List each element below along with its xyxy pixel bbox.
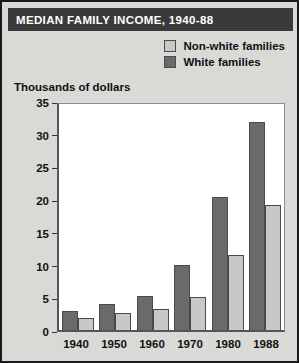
y-tick-label: 20	[36, 195, 49, 207]
bar-white-families-1960	[137, 296, 153, 330]
y-tick-label: 15	[36, 228, 49, 240]
y-tick: 25	[36, 162, 57, 174]
bar-group	[137, 296, 169, 330]
bar-white-families-1980	[212, 197, 228, 330]
y-tick: 0	[43, 326, 57, 338]
y-tick-label: 30	[36, 130, 49, 142]
legend-label-white-families: White families	[183, 56, 260, 68]
y-tick-label: 5	[43, 293, 49, 305]
y-tick: 20	[36, 195, 57, 207]
y-tick: 10	[36, 261, 57, 273]
bar-non-white-families-1950	[115, 313, 131, 330]
x-axis-labels: 194019501960197019801988	[57, 338, 285, 350]
chart-title-bar: MEDIAN FAMILY INCOME, 1940-88	[8, 8, 293, 31]
y-tick-label: 0	[43, 326, 49, 338]
chart-legend: Non-white families White families	[164, 40, 285, 68]
x-axis-label-1950: 1950	[97, 338, 131, 350]
bar-container	[59, 104, 284, 330]
bar-white-families-1940	[62, 311, 78, 330]
y-tick: 35	[36, 97, 57, 109]
x-axis-label-1940: 1940	[59, 338, 93, 350]
y-tick: 30	[36, 130, 57, 142]
bar-group	[99, 304, 131, 330]
y-axis-title: Thousands of dollars	[14, 81, 130, 93]
bar-white-families-1988	[249, 122, 265, 330]
y-tick-label: 35	[36, 97, 49, 109]
bar-group	[174, 265, 206, 330]
bar-group	[249, 122, 281, 330]
plot-area	[57, 103, 285, 332]
bar-non-white-families-1960	[153, 309, 169, 330]
x-axis-label-1980: 1980	[211, 338, 245, 350]
bar-group	[212, 197, 244, 330]
legend-label-non-white-families: Non-white families	[183, 40, 285, 52]
legend-item-non-white-families: Non-white families	[164, 40, 285, 52]
bar-non-white-families-1940	[78, 318, 94, 330]
y-tick: 15	[36, 228, 57, 240]
y-axis: 35 30 25 20 15 10	[11, 98, 57, 336]
bar-non-white-families-1988	[265, 205, 281, 330]
bar-non-white-families-1980	[228, 255, 244, 330]
x-axis-label-1960: 1960	[135, 338, 169, 350]
x-axis-label-1970: 1970	[173, 338, 207, 350]
y-tick: 5	[43, 293, 57, 305]
bar-group	[62, 311, 94, 330]
legend-item-white-families: White families	[164, 56, 260, 68]
bar-white-families-1950	[99, 304, 115, 330]
legend-swatch-non-white-families	[164, 40, 176, 52]
y-tick-label: 25	[36, 162, 49, 174]
chart-figure: MEDIAN FAMILY INCOME, 1940-88 Non-white …	[0, 0, 299, 363]
y-tick-label: 10	[36, 261, 49, 273]
plot-wrapper: 35 30 25 20 15 10	[11, 98, 292, 360]
bar-white-families-1970	[174, 265, 190, 330]
bar-non-white-families-1970	[190, 297, 206, 330]
page-title: MEDIAN FAMILY INCOME, 1940-88	[8, 14, 213, 26]
x-axis-label-1988: 1988	[249, 338, 283, 350]
legend-swatch-white-families	[164, 56, 176, 68]
